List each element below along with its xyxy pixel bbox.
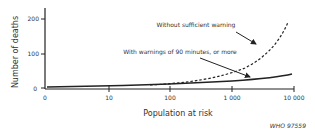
chart: 200 100 0 0 10 100 1 000 10 000 Number o… <box>0 0 315 137</box>
arrow-icon <box>236 32 256 44</box>
x-tick-label: 10 000 <box>284 94 305 101</box>
y-axis-label: Number of deaths <box>11 16 20 88</box>
arrow-icon <box>200 58 250 77</box>
x-tick-label: 0 <box>43 94 47 101</box>
x-tick-label: 10 <box>105 94 113 101</box>
y-tick-label: 0 <box>33 85 37 92</box>
series-with-warning-line <box>47 74 292 87</box>
x-tick-label: 100 <box>164 94 176 101</box>
annotation-without-warning: Without sufficient warning <box>157 21 236 29</box>
x-axis-label: Population at risk <box>143 109 213 118</box>
x-tick-label: 1 000 <box>223 94 240 101</box>
y-tick-label: 200 <box>28 15 40 22</box>
annotation-with-warning: With warnings of 90 minutes, or more <box>123 48 237 56</box>
y-tick-label: 100 <box>28 50 40 57</box>
source-label: WHO 97559 <box>270 122 306 129</box>
